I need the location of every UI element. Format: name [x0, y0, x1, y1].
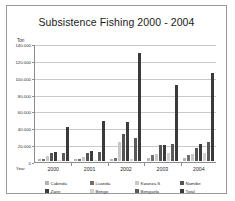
bar-group: 2002: [108, 44, 144, 161]
legend-label: Total: [186, 189, 195, 194]
legend-item-kwanza-s[interactable]: Kwanza S: [135, 179, 180, 187]
legend-item-cabinda[interactable]: Cabinda: [45, 179, 90, 187]
plot-area: 20002001200220032004: [34, 45, 216, 163]
bar: [86, 153, 89, 161]
plot-wrap: 20002001200220032004 020.00040.00060.000…: [34, 45, 216, 163]
y-axis-tick-mark: [32, 45, 34, 46]
bar: [207, 142, 210, 161]
bar: [147, 158, 150, 161]
x-axis-separator: [144, 162, 145, 166]
x-axis-separator: [181, 162, 182, 166]
bar: [175, 85, 178, 161]
y-axis-tick-mark: [32, 146, 34, 147]
bar: [98, 152, 101, 161]
bar: [74, 159, 77, 161]
bar-group: 2000: [35, 44, 71, 161]
bar: [78, 159, 81, 161]
y-axis-tick-mark: [32, 79, 34, 80]
bar: [38, 159, 41, 161]
legend-swatch-icon: [45, 181, 49, 185]
bar: [90, 151, 93, 161]
legend-label: Cabinda: [51, 181, 67, 186]
y-axis-tick-label: 100.000: [15, 76, 31, 81]
legend-item-zaire[interactable]: Zaire: [45, 187, 90, 195]
bar: [199, 144, 202, 161]
legend-label: Namibe: [186, 181, 201, 186]
y-axis-tick-mark: [32, 62, 34, 63]
bar: [203, 153, 206, 161]
legend-label: Zaire: [51, 189, 61, 194]
bar: [46, 156, 49, 161]
y-axis-tick-mark: [32, 163, 34, 164]
y-axis-tick-label: 40.000: [18, 127, 31, 132]
y-axis-tick-label: 140.000: [15, 43, 31, 48]
bar: [102, 121, 105, 161]
y-axis-tick-label: 20.000: [18, 144, 31, 149]
x-axis-label: Year: [16, 166, 25, 171]
bar: [42, 159, 45, 161]
bar: [62, 153, 65, 161]
bar: [187, 155, 190, 161]
legend-swatch-icon: [90, 181, 94, 185]
bar: [94, 160, 97, 161]
x-axis-tick-label: 2004: [181, 166, 217, 172]
legend-item-bengo[interactable]: Bengo: [90, 187, 135, 195]
y-axis-tick-label: 0: [29, 161, 31, 166]
chart-title: Subsistence Fishing 2000 - 2004: [7, 16, 226, 28]
bar: [138, 53, 141, 161]
chart-legend: CabindaLuandaKwanza SNamibeZaireBengoBen…: [45, 179, 225, 195]
legend-label: Bengo: [96, 189, 109, 194]
bar: [110, 159, 113, 161]
x-axis-separator: [71, 162, 72, 166]
bar-group: 2003: [144, 44, 180, 161]
bar: [114, 158, 117, 161]
bar: [58, 160, 61, 161]
bar-group: 2004: [181, 44, 217, 161]
bar: [54, 152, 57, 161]
legend-label: Benguela: [141, 189, 160, 194]
bar: [130, 159, 133, 161]
bar-group: 2001: [71, 44, 107, 161]
legend-swatch-icon: [135, 189, 139, 193]
bar: [122, 134, 125, 161]
bar: [211, 73, 214, 162]
y-axis-tick-mark: [32, 96, 34, 97]
legend-label: Luanda: [96, 181, 111, 186]
legend-swatch-icon: [45, 189, 49, 193]
x-axis-tick-label: 2000: [35, 166, 71, 172]
legend-swatch-icon: [135, 181, 139, 185]
bar: [134, 138, 137, 161]
bar: [159, 145, 162, 161]
legend-item-luanda[interactable]: Luanda: [90, 179, 135, 187]
bar: [191, 154, 194, 161]
y-axis-tick-mark: [32, 129, 34, 130]
legend-swatch-icon: [180, 181, 184, 185]
legend-swatch-icon: [90, 189, 94, 193]
bar: [50, 153, 53, 161]
bar: [66, 127, 69, 161]
y-axis-tick-label: 120.000: [15, 59, 31, 64]
bar: [167, 153, 170, 161]
bar: [183, 158, 186, 161]
x-axis-separator: [108, 162, 109, 166]
bar: [171, 144, 174, 161]
x-axis-tick-label: 2003: [144, 166, 180, 172]
legend-item-benguela[interactable]: Benguela: [135, 187, 180, 195]
bar: [118, 142, 121, 161]
bar: [82, 157, 85, 161]
y-axis-tick-mark: [32, 112, 34, 113]
x-axis-tick-label: 2002: [108, 166, 144, 172]
legend-label: Kwanza S: [141, 181, 161, 186]
y-axis-tick-label: 60.000: [18, 110, 31, 115]
legend-item-total[interactable]: Total: [180, 187, 225, 195]
bar: [163, 145, 166, 161]
bar: [151, 155, 154, 161]
bar: [126, 122, 129, 161]
legend-swatch-icon: [180, 189, 184, 193]
x-axis-tick-label: 2001: [71, 166, 107, 172]
chart-frame: Subsistence Fishing 2000 - 2004 Ton Year…: [6, 5, 227, 194]
bar: [155, 154, 158, 161]
bar: [195, 148, 198, 161]
legend-item-namibe[interactable]: Namibe: [180, 179, 225, 187]
y-axis-tick-label: 80.000: [18, 93, 31, 98]
